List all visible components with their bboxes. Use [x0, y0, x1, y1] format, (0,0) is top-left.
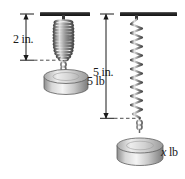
figure-canvas: [0, 0, 185, 179]
right-dimension-label: 5 in.: [93, 65, 113, 80]
left-cylindrical-weight: [44, 70, 88, 95]
left-compressed-coil-spring: [54, 20, 74, 61]
right-spring-mass-system: [100, 12, 177, 166]
right-cylindrical-weight: [117, 138, 163, 166]
spring-mass-figure: 2 in. 5 lb 5 in. x lb: [0, 0, 185, 179]
left-spring-mass-system: [20, 12, 90, 95]
right-ceiling-bracket: [120, 12, 177, 20]
right-weight-label: x lb: [161, 145, 178, 160]
right-eye-hook-connector: [137, 118, 142, 134]
left-dimension-label: 2 in.: [13, 32, 33, 47]
right-weight-unit: lb: [166, 145, 178, 159]
right-stretched-coil-spring: [131, 20, 142, 119]
